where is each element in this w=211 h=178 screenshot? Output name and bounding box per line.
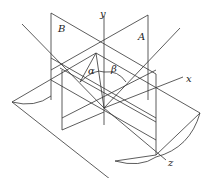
label-x: x xyxy=(186,73,192,84)
label-b: B xyxy=(57,23,65,34)
x-axis xyxy=(104,77,183,108)
label-alpha: α xyxy=(88,65,95,76)
label-beta: β xyxy=(110,63,117,74)
planes-axes-diagram: y B A x z α β xyxy=(0,0,211,178)
label-a: A xyxy=(137,31,145,42)
plane-a xyxy=(51,15,148,100)
inner-wedge xyxy=(80,53,126,108)
label-y: y xyxy=(99,8,106,19)
label-z: z xyxy=(167,157,174,168)
